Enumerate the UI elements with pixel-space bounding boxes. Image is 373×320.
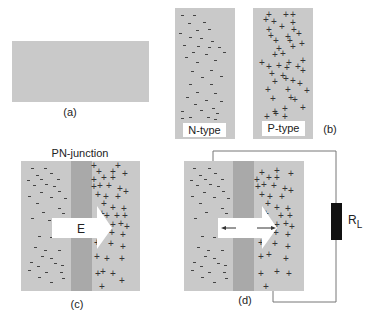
caption-b: (b) — [323, 123, 336, 135]
svg-text:+: + — [272, 76, 278, 87]
svg-text:+: + — [283, 253, 289, 264]
svg-text:+: + — [272, 49, 278, 60]
load-resistor-label: RL — [348, 213, 363, 230]
svg-text:+: + — [120, 229, 126, 240]
svg-text:+: + — [299, 38, 305, 49]
p-type-label: P-type — [268, 122, 300, 134]
pn-junction-circuit: RL +++ +++ +++++ — [184, 151, 363, 302]
pn-junction-panel: ++ +++ +++ +++++ +++ +++ ++++ +++ +++ ++… — [21, 160, 140, 292]
svg-text:+: + — [270, 93, 276, 104]
svg-text:+: + — [288, 185, 294, 196]
svg-text:+: + — [285, 241, 291, 252]
svg-text:+: + — [288, 168, 294, 179]
svg-text:+: + — [300, 65, 306, 76]
svg-text:+: + — [259, 57, 265, 68]
caption-c: (c) — [71, 298, 84, 310]
svg-text:+: + — [271, 16, 277, 27]
svg-text:+: + — [94, 251, 100, 262]
svg-text:+: + — [285, 229, 291, 240]
svg-text:+: + — [258, 251, 264, 262]
n-type-label: N-type — [188, 124, 220, 136]
svg-text:+: + — [104, 253, 110, 264]
svg-text:+: + — [286, 268, 292, 279]
svg-text:+: + — [283, 9, 289, 20]
svg-text:+: + — [258, 268, 264, 279]
pn-junction-title: PN-junction — [52, 147, 109, 159]
svg-text:+: + — [123, 186, 129, 197]
svg-text:+: + — [106, 180, 112, 191]
svg-text:+: + — [259, 167, 265, 178]
svg-text:+: + — [100, 266, 106, 277]
svg-text:+: + — [110, 268, 116, 279]
svg-text:+: + — [304, 85, 310, 96]
svg-text:+: + — [115, 191, 121, 202]
svg-text:+: + — [292, 94, 298, 105]
svg-text:+: + — [263, 281, 269, 292]
pn-junction-figure: (a) N-type — [0, 0, 373, 320]
svg-text:+: + — [273, 108, 279, 119]
caption-a: (a) — [63, 106, 76, 118]
svg-text:+: + — [271, 180, 277, 191]
svg-text:+: + — [119, 275, 125, 286]
svg-text:+: + — [274, 266, 280, 277]
svg-text:+: + — [99, 281, 105, 292]
svg-text:+: + — [108, 238, 114, 249]
svg-text:+: + — [282, 111, 288, 122]
p-type-panel: +++ +++ +++ +++ +++ +++ +++ +++ +++ +++ … — [253, 8, 313, 139]
svg-text:+: + — [119, 253, 125, 264]
semiconductor-block — [12, 41, 149, 102]
n-type-panel: N-type — [175, 8, 235, 139]
svg-text:+: + — [272, 238, 278, 249]
svg-text:+: + — [122, 168, 128, 179]
svg-text:+: + — [279, 191, 285, 202]
svg-text:+: + — [290, 75, 296, 86]
svg-text:+: + — [297, 78, 303, 89]
load-resistor — [331, 203, 342, 240]
svg-text:+: + — [283, 73, 289, 84]
load-label-main: R — [348, 213, 357, 227]
electric-field-label: E — [77, 222, 85, 236]
svg-text:+: + — [120, 241, 126, 252]
svg-text:+: + — [290, 41, 296, 52]
svg-text:+: + — [266, 249, 272, 260]
svg-text:+: + — [300, 102, 306, 113]
load-label-sub: L — [357, 219, 363, 230]
svg-text:+: + — [264, 111, 270, 122]
caption-d: (d) — [238, 294, 251, 306]
svg-text:+: + — [115, 160, 121, 171]
